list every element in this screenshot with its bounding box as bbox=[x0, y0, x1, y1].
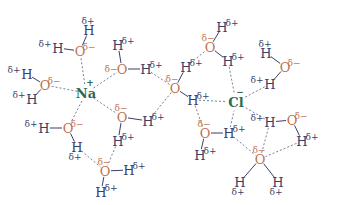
sodium-ion: Na bbox=[76, 86, 97, 101]
ion-charge: − bbox=[236, 87, 244, 97]
interaction-line bbox=[93, 98, 117, 114]
partial-negative-charge: δ− bbox=[253, 145, 266, 155]
hydrogen-atom: H bbox=[264, 115, 275, 130]
partial-positive-charge: δ+ bbox=[197, 91, 210, 101]
partial-negative-charge: δ− bbox=[105, 64, 118, 74]
covalent-bond bbox=[64, 49, 74, 50]
partial-negative-charge: δ− bbox=[115, 103, 128, 113]
partial-positive-charge: δ+ bbox=[232, 52, 245, 62]
partial-positive-charge: δ+ bbox=[122, 132, 135, 142]
partial-positive-charge: δ+ bbox=[190, 58, 203, 68]
hydrogen-atom: H bbox=[21, 67, 32, 82]
partial-positive-charge: δ+ bbox=[259, 39, 272, 49]
solvation-diagram: Oδ−Hδ+Hδ+Oδ−Hδ+Hδ+Oδ−Hδ+Hδ+Oδ−Hδ+Hδ+Oδ−H… bbox=[0, 0, 337, 205]
hydrogen-atom: H bbox=[264, 77, 275, 92]
partial-negative-charge: δ− bbox=[166, 74, 179, 84]
interaction-line bbox=[93, 72, 117, 88]
partial-positive-charge: δ+ bbox=[233, 124, 246, 134]
partial-positive-charge: δ+ bbox=[270, 187, 283, 197]
interaction-line bbox=[81, 57, 85, 84]
partial-negative-charge: δ− bbox=[198, 119, 211, 129]
partial-negative-charge: δ− bbox=[83, 42, 96, 52]
atom-labels: Oδ−Hδ+Hδ+Oδ−Hδ+Hδ+Oδ−Hδ+Hδ+Oδ−Hδ+Hδ+Oδ−H… bbox=[8, 16, 319, 200]
covalent-bond bbox=[128, 118, 142, 120]
partial-negative-charge: δ− bbox=[98, 157, 111, 167]
partial-negative-charge: δ− bbox=[295, 111, 308, 121]
oxygen-atom: O bbox=[117, 62, 128, 77]
partial-positive-charge: δ+ bbox=[251, 113, 264, 123]
partial-positive-charge: δ+ bbox=[150, 60, 163, 70]
partial-positive-charge: δ+ bbox=[306, 132, 319, 142]
hydrogen-atom: H bbox=[38, 121, 49, 136]
partial-positive-charge: δ+ bbox=[152, 112, 165, 122]
partial-positive-charge: δ+ bbox=[232, 187, 245, 197]
hydrogen-atom: H bbox=[26, 92, 37, 107]
partial-positive-charge: δ+ bbox=[25, 119, 38, 129]
partial-positive-charge: δ+ bbox=[82, 16, 95, 26]
partial-positive-charge: δ+ bbox=[39, 39, 52, 49]
partial-positive-charge: δ+ bbox=[69, 152, 82, 162]
hydrogen-atom: H bbox=[52, 41, 63, 56]
chloride-ion: Cl bbox=[228, 95, 243, 110]
interaction-line bbox=[51, 86, 77, 91]
partial-positive-charge: δ+ bbox=[105, 183, 118, 193]
partial-negative-charge: δ− bbox=[71, 119, 84, 129]
partial-positive-charge: δ+ bbox=[226, 18, 239, 28]
partial-positive-charge: δ+ bbox=[204, 146, 217, 156]
partial-negative-charge: δ− bbox=[288, 58, 301, 68]
interaction-line bbox=[266, 143, 297, 156]
molecule-canvas: Oδ−Hδ+Hδ+Oδ−Hδ+Hδ+Oδ−Hδ+Hδ+Oδ−Hδ+Hδ+Oδ−H… bbox=[0, 0, 337, 205]
covalent-bond bbox=[276, 121, 286, 122]
ion-charge: + bbox=[86, 78, 94, 88]
partial-positive-charge: δ+ bbox=[8, 65, 21, 75]
interaction-line bbox=[229, 67, 234, 93]
partial-positive-charge: δ+ bbox=[251, 75, 264, 85]
partial-negative-charge: δ− bbox=[202, 33, 215, 43]
partial-positive-charge: δ+ bbox=[133, 161, 146, 171]
partial-positive-charge: δ+ bbox=[13, 90, 26, 100]
interaction-line bbox=[244, 87, 265, 98]
partial-positive-charge: δ+ bbox=[122, 36, 135, 46]
partial-negative-charge: δ− bbox=[48, 76, 61, 86]
covalent-bond bbox=[111, 170, 123, 171]
